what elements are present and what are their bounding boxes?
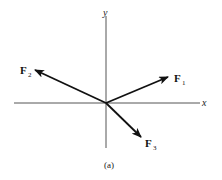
x-axis-label: x — [201, 97, 207, 108]
vector-f1-label: F 1 — [174, 72, 186, 87]
figure-caption: (a) — [104, 160, 114, 170]
vector-f1-arrow — [106, 77, 168, 103]
y-axis-label: y — [102, 7, 108, 18]
vector-f3-label: F 3 — [145, 137, 157, 152]
svg-text:3: 3 — [153, 144, 157, 152]
vector-f3-arrow — [106, 103, 141, 137]
vector-f2-label: F 2 — [20, 64, 32, 79]
vector-f2-arrow — [35, 70, 106, 103]
svg-text:1: 1 — [182, 79, 186, 87]
force-diagram: x y F 1 F 2 F 3 (a) — [0, 0, 222, 180]
svg-text:F: F — [174, 72, 181, 84]
svg-text:F: F — [145, 137, 152, 149]
svg-text:2: 2 — [28, 71, 32, 79]
svg-text:F: F — [20, 64, 27, 76]
